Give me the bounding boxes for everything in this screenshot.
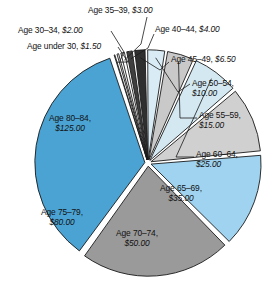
slice-label-name: Age 75–79, — [25, 207, 99, 217]
slice-label-amount: $35.00 — [144, 193, 218, 203]
slice-label-name: Age 45–49, — [171, 54, 213, 64]
slice-label-age-under-30: Age under 30, $1.50 — [27, 41, 101, 51]
slice-label-amount: $50.00 — [100, 238, 174, 248]
slice-label-age-30-34: Age 30–34, $2.00 — [18, 25, 83, 35]
slice-label-name: Age 65–69, — [144, 183, 218, 193]
slice-label-age-70-74: Age 70–74, $50.00 — [100, 228, 174, 248]
slice-label-amount: $2.00 — [62, 25, 82, 35]
slice-label-amount: $6.50 — [215, 54, 235, 64]
slice-label-name: Age 70–74, — [100, 228, 174, 238]
slice-label-age-35-39: Age 35–39, $3.00 — [88, 5, 153, 15]
slice-label-age-50-54: Age 50–54, $10.00 — [192, 78, 234, 98]
slice-label-name: Age 40–44, — [155, 24, 197, 34]
slice-label-age-40-44: Age 40–44, $4.00 — [155, 24, 220, 34]
slice-label-age-75-79: Age 75–79, $80.00 — [25, 207, 99, 227]
slice-label-name: Age 35–39, — [88, 5, 130, 15]
slice-label-age-80-84: Age 80–84, $125.00 — [30, 113, 110, 133]
slice-label-amount: $125.00 — [30, 123, 110, 133]
slice-label-amount: $4.00 — [199, 24, 219, 34]
slice-label-name: Age 80–84, — [30, 113, 110, 123]
slice-label-name: Age under 30, — [27, 41, 78, 51]
slice-label-name: Age 55–59, — [199, 110, 241, 120]
slice-label-amount: $80.00 — [25, 217, 99, 227]
slice-label-name: Age 50–54, — [192, 78, 234, 88]
slice-label-amount: $15.00 — [199, 120, 241, 130]
slice-label-age-65-69: Age 65–69, $35.00 — [144, 183, 218, 203]
slice-label-amount: $1.50 — [81, 41, 101, 51]
pie-chart: Age under 30, $1.50 Age 30–34, $2.00 Age… — [0, 0, 269, 282]
slice-label-age-45-49: Age 45–49, $6.50 — [171, 54, 236, 64]
slice-label-age-60-64: Age 60–64, $25.00 — [196, 149, 238, 169]
slice-label-age-55-59: Age 55–59, $15.00 — [199, 110, 241, 130]
slice-label-name: Age 60–64, — [196, 149, 238, 159]
slice-label-amount: $10.00 — [192, 88, 234, 98]
slice-label-amount: $3.00 — [132, 5, 152, 15]
slice-label-amount: $25.00 — [196, 159, 238, 169]
slice-label-name: Age 30–34, — [18, 25, 60, 35]
